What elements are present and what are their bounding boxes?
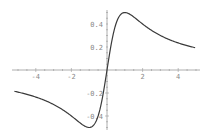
x-tick-label: 4 xyxy=(176,73,180,81)
y-tick-label: 0.4 xyxy=(90,21,103,29)
y-tick-label: -0.2 xyxy=(86,90,103,98)
y-tick-label: -0.4 xyxy=(86,113,103,121)
x-tick-label: 2 xyxy=(140,73,144,81)
plot-canvas: -4-2240.40.2-0.2-0.4 xyxy=(0,0,209,139)
x-tick-label: -2 xyxy=(67,73,75,81)
axes xyxy=(12,10,200,130)
x-tick-label: -4 xyxy=(32,73,40,81)
function-plot: -4-2240.40.2-0.2-0.4 xyxy=(0,0,209,139)
y-tick-label: 0.2 xyxy=(90,44,103,52)
